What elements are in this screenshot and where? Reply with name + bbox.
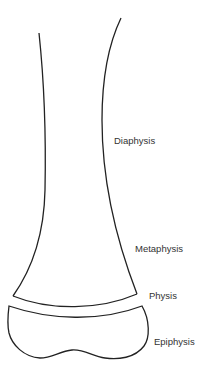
shaft-left-outline (13, 33, 45, 296)
label-physis: Physis (149, 291, 177, 301)
shaft-right-outline (102, 18, 137, 294)
metaphysis-bottom-edge (13, 294, 137, 307)
label-metaphysis: Metaphysis (135, 244, 183, 254)
epiphysis-outline (8, 306, 148, 359)
label-diaphysis: Diaphysis (114, 136, 155, 146)
label-epiphysis: Epiphysis (154, 337, 195, 347)
bone-diagram (0, 0, 208, 367)
